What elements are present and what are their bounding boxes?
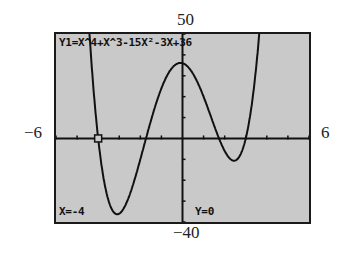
xmin-label: −6 [24, 124, 42, 141]
graph-plot [56, 34, 309, 222]
x-readout: X=-4 [59, 206, 84, 217]
trace-cursor [95, 135, 102, 142]
function-curve [89, 34, 260, 214]
y-readout: Y=0 [195, 206, 214, 217]
function-label: Y1=X^4+X^3-15X²-3X+36 [59, 37, 192, 48]
calculator-graph-screen: Y1=X^4+X^3-15X²-3X+36 X=-4 Y=0 [54, 32, 311, 224]
xmax-label: 6 [321, 124, 330, 141]
ymax-label: 50 [177, 11, 194, 28]
ymin-label: −40 [173, 224, 200, 241]
